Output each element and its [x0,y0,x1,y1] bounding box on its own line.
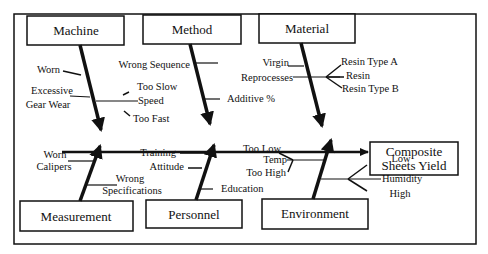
cause-machine-speed: Speed [138,95,164,106]
cause-personnel-training: Training [140,147,177,158]
category-measurement: Measurement Worn Calipers Wrong Specific… [20,146,162,231]
cause-environment-high: High [390,188,412,199]
bone-machine [80,45,101,130]
cause-machine-too-slow: Too Slow [137,81,178,92]
cause-material-resin-type-b: Resin Type B [342,83,399,94]
cause-machine-worn: Worn [37,64,61,75]
bone-material [301,43,322,126]
cause-method-additive: Additive % [227,93,275,104]
cause-environment-too-high: Too High [246,167,287,178]
cause-material-reprocesses: Reprocesses [241,72,293,83]
bone-method [190,44,210,124]
cause-environment-humidity: Humidity [382,173,423,184]
cause-machine-gear-wear: Gear Wear [26,99,71,110]
fishbone-diagram: Composite Sheets Yield Machine Worn Exce… [0,0,488,254]
category-environment-label: Environment [281,206,349,221]
cause-machine-excessive: Excessive [31,85,73,96]
category-method: Method Wrong Sequence Additive % [118,15,275,124]
cause-environment-temp: Temp [263,154,287,165]
cause-method-wrong-sequence: Wrong Sequence [118,59,190,70]
cause-personnel-attitude: Attitude [150,161,185,172]
category-material-label: Material [285,21,329,36]
bone-measurement [80,146,100,201]
cause-measurement-worn: Worn [43,149,67,160]
cause-material-resin: Resin [346,70,371,81]
effect-box: Composite Sheets Yield [370,142,458,175]
cause-machine-too-fast: Too Fast [133,113,169,124]
cause-environment-low: Low [391,153,411,164]
cause-measurement-specifications: Specifications [102,185,161,196]
category-machine-label: Machine [53,23,99,38]
cause-material-virgin: Virgin [262,57,289,68]
cause-environment-too-low: Too Low [243,143,281,154]
cause-material-resin-type-a: Resin Type A [341,56,398,67]
cause-measurement-calipers: Calipers [37,161,72,172]
category-personnel-label: Personnel [168,207,220,222]
category-environment: Environment Too Low Temp Too High Low Hu… [243,140,423,229]
category-material: Material Virgin Reprocesses Resin Type A… [241,14,399,126]
cause-measurement-wrong: Wrong [116,173,145,184]
category-method-label: Method [172,22,213,37]
cause-personnel-education: Education [221,183,264,194]
bone-environment [313,140,331,199]
category-measurement-label: Measurement [41,209,112,224]
